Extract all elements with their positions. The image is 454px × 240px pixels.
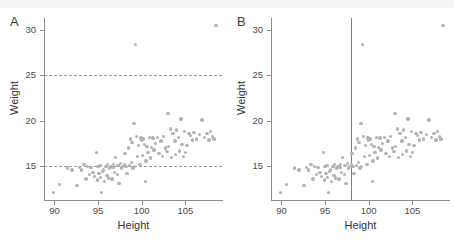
data-point [392,150,395,153]
data-point [146,151,149,154]
data-point [279,191,282,194]
data-point [144,159,147,162]
data-point [98,164,101,167]
data-point [307,168,310,171]
data-point [130,141,133,144]
data-point [130,161,133,164]
y-tick-label: 15 [10,160,36,171]
data-point [182,155,185,158]
data-point [378,136,381,139]
data-point [70,168,73,171]
data-point [173,139,176,142]
data-point [162,135,165,138]
y-tick-label: 20 [10,115,36,126]
data-point [175,128,178,131]
data-point [166,112,169,115]
data-point [373,151,376,154]
data-point [127,146,130,149]
data-point [416,134,419,137]
y-tick-label: 25 [237,69,263,80]
data-point [212,137,215,140]
data-point [383,136,386,139]
data-point [149,156,152,159]
data-point [123,152,126,155]
data-point [91,171,94,174]
y-tick [267,75,271,76]
y-tick-label: 30 [10,24,36,35]
data-point [406,117,409,120]
data-point [167,145,170,148]
y-tick [40,121,44,122]
data-point [357,161,360,164]
data-point [171,132,174,135]
y-tick [267,121,271,122]
plot-area-a [44,18,222,200]
data-point [425,133,428,136]
data-point [125,172,128,175]
y-tick-label: 20 [237,115,263,126]
data-point [177,136,180,139]
data-point [203,136,206,139]
data-point [180,143,183,146]
data-point [152,148,155,151]
y-tick-label: 15 [237,160,263,171]
y-tick-label: 30 [237,24,263,35]
y-tick [267,166,271,167]
data-point [419,131,422,134]
data-point [350,152,353,155]
figure-two-panel-scatter: A Height Weight 152025309095100105 B Hei… [0,0,454,240]
data-point [394,145,397,148]
data-point [322,151,325,154]
data-point [192,131,195,134]
data-point [357,141,360,144]
data-point [405,149,408,152]
data-point [293,166,296,169]
data-point [326,176,329,179]
data-point [136,155,139,158]
data-point [341,156,344,159]
data-point [439,137,442,140]
data-point [302,184,305,187]
data-point [297,168,300,171]
data-point [311,177,314,180]
data-point [316,166,319,169]
panel-b: B Height Weight 152025309095100105 [227,0,454,240]
data-point [110,177,113,180]
data-point [441,24,444,27]
data-point [161,155,164,158]
data-point [363,155,366,158]
data-point [170,156,173,159]
x-tick-label: 95 [312,205,338,216]
data-point [360,165,363,168]
data-point [58,183,61,186]
plot-area-b [271,18,449,200]
data-point [214,24,217,27]
x-tick-label: 105 [172,205,198,216]
data-point [169,127,172,130]
panel-a: A Height Weight 152025309095100105 [0,0,227,240]
data-point [409,155,412,158]
data-point [114,156,117,159]
data-point [66,166,69,169]
data-point [96,178,99,181]
data-point [327,191,330,194]
data-point [386,139,389,142]
data-point [145,145,148,148]
data-point [407,143,410,146]
data-point [99,176,102,179]
data-point [159,139,162,142]
data-point [116,173,119,176]
data-point [388,155,391,158]
x-tick-label: 90 [41,205,67,216]
data-point [103,180,106,183]
data-point [412,144,415,147]
data-point [379,148,382,151]
data-point [84,177,87,180]
data-point [318,171,321,174]
data-point [400,139,403,142]
data-point [133,165,136,168]
data-point [354,146,357,149]
data-point [389,135,392,138]
data-point [209,130,212,133]
data-point [100,191,103,194]
